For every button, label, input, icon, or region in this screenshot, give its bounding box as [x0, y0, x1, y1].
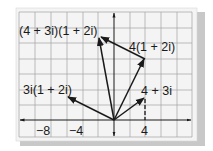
tick-label-neg4: −4 — [69, 124, 83, 138]
complex-plane-figure: (4 + 3i)(1 + 2i) 4(1 + 2i) 3i(1 + 2i) 4 … — [0, 0, 213, 151]
tick-label-4: 4 — [141, 124, 148, 138]
label-scaled-imag: 3i(1 + 2i) — [23, 83, 72, 97]
label-factor: 4 + 3i — [141, 84, 172, 98]
label-scaled-real: 4(1 + 2i) — [129, 40, 175, 54]
label-product: (4 + 3i)(1 + 2i) — [19, 24, 98, 38]
diagram-canvas: (4 + 3i)(1 + 2i) 4(1 + 2i) 3i(1 + 2i) 4 … — [0, 0, 213, 151]
tick-label-neg8: −8 — [36, 124, 50, 138]
